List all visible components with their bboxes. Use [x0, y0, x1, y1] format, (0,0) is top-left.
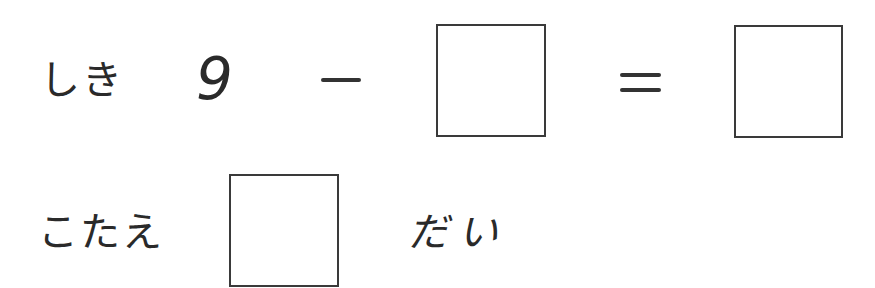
blank-answer-box[interactable] — [229, 174, 339, 287]
equation-label: しき — [40, 60, 124, 100]
operand-number: 9 — [196, 50, 233, 108]
unit-label: だい — [408, 212, 508, 252]
answer-label: こたえ — [38, 212, 164, 252]
blank-operand-box[interactable] — [436, 24, 546, 137]
blank-result-box[interactable] — [734, 25, 843, 138]
